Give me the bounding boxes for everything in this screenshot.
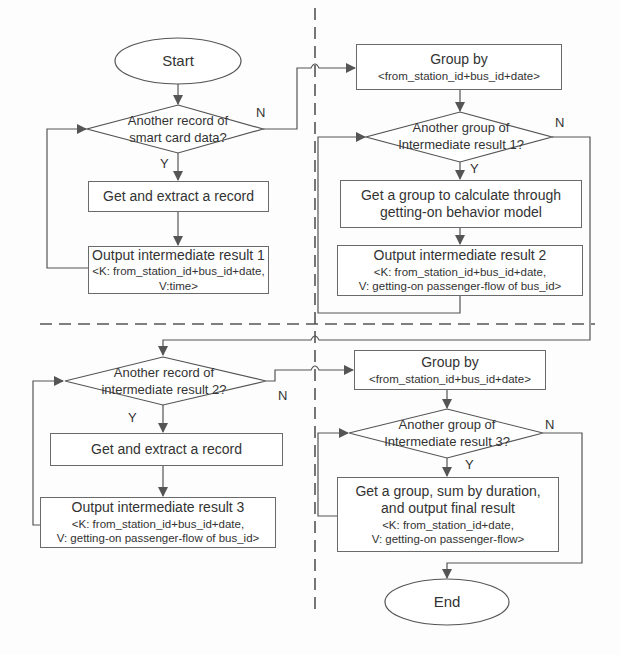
group-by-2-title: Group by (421, 354, 479, 372)
process-2-line-2: getting-on behavior model (380, 204, 542, 222)
decision-4-text: Another group of Intermediate result 3? (366, 414, 528, 454)
decision-1-line-2: smart card data? (129, 130, 227, 147)
output-3-key: <K: from_station_id+bus_id+date, (72, 517, 244, 531)
flowchart-canvas: Start Another record of smart card data?… (0, 0, 620, 655)
flowchart-connectors (0, 0, 620, 655)
decision-1-yes-label: Y (160, 156, 169, 171)
decision-3-line-1: Another record of (114, 365, 214, 382)
end-label: End (397, 591, 497, 613)
process-extract-record-2: Get and extract a record (50, 433, 283, 466)
decision-1-text: Another record of smart card data? (100, 110, 256, 150)
process-extract-record-1-text: Get and extract a record (103, 188, 254, 206)
decision-2-yes-label: Y (470, 161, 479, 176)
group-by-1-key: <from_station_id+bus_id+date> (378, 69, 540, 83)
group-by-1-title: Group by (430, 51, 488, 69)
output-2-title: Output intermediate result 2 (374, 247, 547, 265)
final-result-output: Get a group, sum by duration, and output… (337, 477, 559, 552)
output-2-key: <K: from_station_id+bus_id+date, (374, 265, 546, 279)
decision-1-no-label: N (256, 105, 265, 120)
final-output-key: <K: from_station_id+date, (382, 518, 514, 532)
output-intermediate-result-2: Output intermediate result 2 <K: from_st… (337, 245, 583, 296)
final-process-line-2: and output final result (381, 500, 515, 518)
group-by-2-key: <from_station_id+bus_id+date> (369, 372, 531, 386)
decision-3-line-2: intermediate result 2? (101, 382, 226, 399)
decision-3-yes-label: Y (128, 410, 137, 425)
final-process-line-1: Get a group, sum by duration, (355, 483, 540, 501)
process-extract-record-2-text: Get and extract a record (91, 441, 242, 459)
group-by-2: Group by <from_station_id+bus_id+date> (354, 350, 546, 390)
output-3-title: Output intermediate result 3 (72, 499, 245, 517)
decision-4-no-label: N (545, 417, 554, 432)
output-1-value: V:time> (159, 279, 198, 293)
process-getting-on-model: Get a group to calculate through getting… (340, 180, 582, 228)
decision-2-no-label: N (555, 115, 564, 130)
decision-2-text: Another group of Intermediate result 1? (380, 117, 542, 157)
process-extract-record-1: Get and extract a record (88, 181, 269, 212)
group-by-1: Group by <from_station_id+bus_id+date> (356, 44, 562, 90)
output-2-value: V: getting-on passenger-flow of bus_id> (359, 279, 562, 293)
decision-4-line-2: Intermediate result 3? (384, 434, 510, 451)
decision-1-line-1: Another record of (128, 113, 228, 130)
decision-4-line-1: Another group of (399, 417, 496, 434)
output-1-title: Output intermediate result 1 (92, 247, 265, 265)
output-intermediate-result-1: Output intermediate result 1 <K: from_st… (88, 246, 269, 294)
start-label: Start (128, 50, 228, 72)
decision-2-line-1: Another group of (413, 120, 510, 137)
decision-3-text: Another record of intermediate result 2? (88, 362, 240, 402)
decision-4-yes-label: Y (465, 457, 474, 472)
output-1-key: <K: from_station_id+bus_id+date, (92, 264, 264, 278)
final-output-value: V: getting-on passenger-flow> (372, 532, 525, 546)
output-3-value: V: getting-on passenger-flow of bus_id> (57, 531, 260, 545)
process-2-line-1: Get a group to calculate through (361, 187, 561, 205)
decision-3-no-label: N (278, 388, 287, 403)
output-intermediate-result-3: Output intermediate result 3 <K: from_st… (40, 497, 276, 548)
decision-2-line-2: Intermediate result 1? (398, 137, 524, 154)
